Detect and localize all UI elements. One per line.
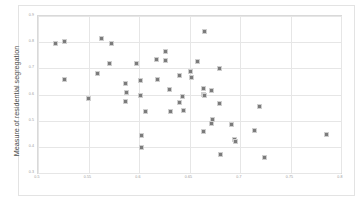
x-tick-label: 0.6	[135, 175, 140, 179]
data-point	[123, 99, 128, 104]
data-point	[189, 75, 194, 80]
scatter-chart-figure: 0.50.550.60.650.70.750.8 0.30.40.50.60.7…	[0, 0, 359, 202]
data-point	[168, 109, 173, 114]
y-axis-title: Measure of residential segregation	[12, 41, 21, 161]
gridline-vertical	[240, 16, 241, 173]
data-point	[202, 93, 207, 98]
data-point	[155, 77, 160, 82]
data-point	[209, 88, 214, 93]
gridline-vertical	[89, 16, 90, 173]
x-tick-label: 0.8	[337, 175, 342, 179]
y-tick-label: 0.5	[21, 118, 34, 122]
data-point	[123, 81, 128, 86]
y-tick-label: 0.4	[21, 144, 34, 148]
x-tick-label: 0.65	[185, 175, 192, 179]
data-point	[53, 41, 58, 46]
data-point	[134, 61, 139, 66]
data-point	[229, 122, 234, 127]
data-point	[163, 58, 168, 63]
data-point	[99, 36, 104, 41]
y-tick-label: 0.3	[21, 170, 34, 174]
data-point	[138, 78, 143, 83]
data-point	[201, 86, 206, 91]
data-point	[177, 73, 182, 78]
data-point	[139, 133, 144, 138]
data-point	[252, 128, 257, 133]
data-point	[154, 57, 159, 62]
data-point	[218, 152, 223, 157]
plot-area	[37, 15, 342, 174]
data-point	[262, 155, 267, 160]
data-point	[181, 108, 186, 113]
data-point	[107, 61, 112, 66]
data-point	[177, 100, 182, 105]
data-point	[233, 139, 238, 144]
data-point	[143, 109, 148, 114]
gridline-vertical	[38, 16, 39, 173]
gridline-vertical	[190, 16, 191, 173]
data-point	[201, 129, 206, 134]
x-tick-label: 0.5	[34, 175, 39, 179]
gridline-horizontal	[38, 173, 341, 174]
data-point	[195, 59, 200, 64]
y-tick-label: 0.9	[21, 13, 34, 17]
data-point	[95, 71, 100, 76]
data-point	[209, 121, 214, 126]
data-point	[163, 49, 168, 54]
x-tick-label: 0.75	[286, 175, 293, 179]
y-tick-label: 0.8	[21, 39, 34, 43]
gridline-vertical	[341, 16, 342, 173]
data-point	[202, 29, 207, 34]
y-tick-label: 0.7	[21, 65, 34, 69]
gridline-vertical	[291, 16, 292, 173]
data-point	[217, 66, 222, 71]
data-point	[109, 41, 114, 46]
data-point	[167, 87, 172, 92]
data-point	[86, 96, 91, 101]
data-point	[139, 145, 144, 150]
x-tick-label: 0.7	[236, 175, 241, 179]
data-point	[124, 90, 129, 95]
data-point	[138, 93, 143, 98]
y-tick-label: 0.6	[21, 92, 34, 96]
data-point	[217, 101, 222, 106]
data-point	[257, 104, 262, 109]
data-point	[180, 94, 185, 99]
data-point	[62, 77, 67, 82]
x-tick-label: 0.55	[84, 175, 91, 179]
data-point	[324, 132, 329, 137]
data-point	[62, 39, 67, 44]
